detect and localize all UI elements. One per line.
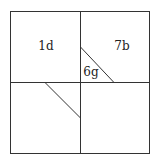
label-7b: 7b	[114, 39, 130, 53]
square-diagram: 1d 7b 6g	[0, 0, 160, 166]
label-1d: 1d	[38, 39, 54, 53]
label-6g: 6g	[83, 65, 99, 79]
